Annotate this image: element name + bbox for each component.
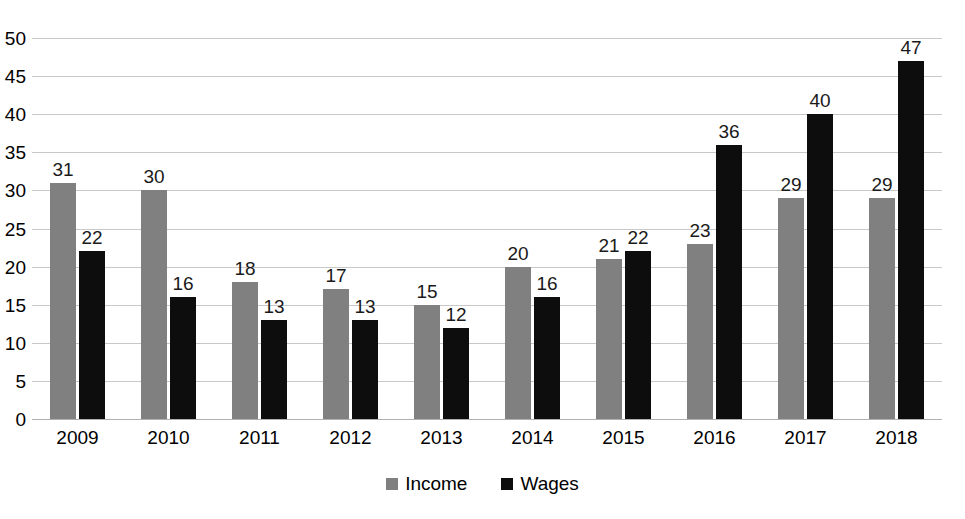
y-tick-label: 50 [5,29,26,48]
bar-wages-2012[interactable] [352,320,378,419]
legend-label: Wages [520,474,578,493]
bar-group: 2947 [869,38,924,419]
bar-wages-2013[interactable] [443,328,469,419]
x-tick-label-2016: 2016 [670,426,760,450]
y-tick-label: 45 [5,67,26,86]
bar-wages-2015[interactable] [625,251,651,419]
bar-group: 1512 [414,38,469,419]
bar-group: 3122 [50,38,105,419]
x-tick-label-2015: 2015 [579,426,669,450]
plot-area: 3122301618131713151220162122233629402947 [32,38,942,419]
legend-item-income[interactable]: Income [386,474,467,493]
data-label-wages-2015: 22 [618,228,658,247]
income-swatch-icon [386,478,398,490]
data-label-wages-2018: 47 [891,38,931,57]
bar-income-2010[interactable] [141,190,167,419]
y-tick-label: 20 [5,257,26,276]
data-label-income-2011: 18 [225,259,265,278]
bar-group: 2336 [687,38,742,419]
y-tick-label: 25 [5,219,26,238]
data-label-wages-2011: 13 [254,297,294,316]
bar-wages-2017[interactable] [807,114,833,419]
data-label-wages-2012: 13 [345,297,385,316]
data-label-wages-2013: 12 [436,305,476,324]
data-label-income-2017: 29 [771,175,811,194]
bar-wages-2011[interactable] [261,320,287,419]
data-label-wages-2009: 22 [72,228,112,247]
data-label-wages-2016: 36 [709,122,749,141]
data-label-wages-2017: 40 [800,91,840,110]
data-label-income-2012: 17 [316,266,356,285]
x-tick-label-2018: 2018 [852,426,942,450]
y-tick-label: 35 [5,143,26,162]
data-label-wages-2010: 16 [163,274,203,293]
wages-swatch-icon [501,478,513,490]
y-tick-label: 15 [5,295,26,314]
y-tick-label: 40 [5,105,26,124]
data-label-income-2013: 15 [407,282,447,301]
x-tick-label-2013: 2013 [397,426,487,450]
data-label-income-2014: 20 [498,244,538,263]
bar-wages-2018[interactable] [898,61,924,419]
data-label-income-2010: 30 [134,167,174,186]
x-tick-label-2012: 2012 [306,426,396,450]
bar-income-2018[interactable] [869,198,895,419]
bar-wages-2009[interactable] [79,251,105,419]
bar-group: 1713 [323,38,378,419]
bar-chart: 05101520253035404550 3122301618131713151… [0,0,965,519]
gridline-0 [32,419,942,420]
chart-legend: IncomeWages [0,474,965,493]
bar-income-2009[interactable] [50,183,76,419]
x-tick-label-2010: 2010 [124,426,214,450]
y-tick-label: 5 [15,371,26,390]
data-label-wages-2014: 16 [527,274,567,293]
bar-group: 2940 [778,38,833,419]
bar-group: 1813 [232,38,287,419]
bar-group: 3016 [141,38,196,419]
y-tick-label: 0 [15,410,26,429]
x-tick-label-2009: 2009 [33,426,123,450]
data-label-income-2009: 31 [43,160,83,179]
bar-group: 2122 [596,38,651,419]
legend-label: Income [405,474,467,493]
y-tick-label: 30 [5,181,26,200]
data-label-income-2016: 23 [680,221,720,240]
y-axis: 05101520253035404550 [0,38,26,419]
y-tick-label: 10 [5,333,26,352]
bar-income-2017[interactable] [778,198,804,419]
legend-item-wages[interactable]: Wages [501,474,578,493]
data-label-income-2018: 29 [862,175,902,194]
x-tick-label-2011: 2011 [215,426,305,450]
bar-wages-2014[interactable] [534,297,560,419]
bar-income-2016[interactable] [687,244,713,419]
x-tick-label-2014: 2014 [488,426,578,450]
bar-wages-2010[interactable] [170,297,196,419]
bar-wages-2016[interactable] [716,145,742,419]
bar-income-2015[interactable] [596,259,622,419]
x-axis: 2009201020112012201320142015201620172018 [32,426,942,456]
x-tick-label-2017: 2017 [761,426,851,450]
bar-group: 2016 [505,38,560,419]
